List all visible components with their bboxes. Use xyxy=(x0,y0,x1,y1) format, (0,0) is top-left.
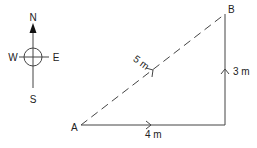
compass-east-label: E xyxy=(53,52,60,63)
compass-west-label: W xyxy=(8,52,18,63)
vertical-length-label: 3 m xyxy=(233,66,250,77)
horizontal-length-label: 4 m xyxy=(145,129,162,140)
displacement-diagram: N S W E A B 4 m 3 m 5 m xyxy=(0,0,257,148)
compass-icon xyxy=(19,23,49,88)
point-b-label: B xyxy=(228,4,235,15)
north-arrow-icon xyxy=(30,23,37,33)
point-a-label: A xyxy=(71,122,78,133)
compass-north-label: N xyxy=(29,12,36,23)
compass-south-label: S xyxy=(30,94,37,105)
diagonal-direction-arrow-icon xyxy=(146,68,153,77)
